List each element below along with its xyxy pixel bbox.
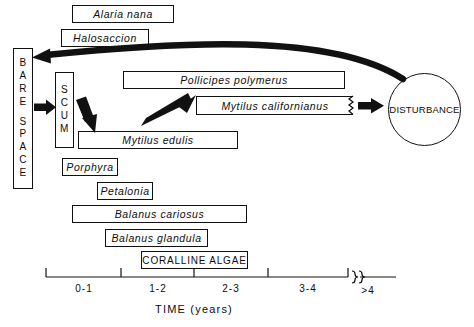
arrow-mytilus-californianus-to-disturbance: [358, 98, 384, 114]
species-label: Mytilus edulis: [122, 134, 193, 146]
bare-space-letter: A: [19, 141, 26, 154]
species-box-mytilus-californianus: Mytilus californianus: [196, 96, 353, 115]
species-label: Petalonia: [100, 185, 149, 197]
arrow-scum-to-mytilus-edulis: [76, 97, 97, 134]
node-scum: S C U M: [55, 72, 74, 148]
scum-letter: M: [60, 123, 69, 136]
species-label: Pollicipes polymerus: [180, 74, 288, 86]
species-label: Porphyra: [66, 161, 113, 173]
bare-space-letter: C: [19, 154, 27, 167]
scum-letter: U: [61, 110, 69, 123]
tick-text: 2-3: [222, 283, 239, 294]
axis-title-time: TIME (years): [155, 303, 233, 315]
axis-break-icon: [352, 271, 365, 283]
species-box-porphyra: Porphyra: [62, 158, 118, 176]
bare-space-letter: E: [19, 167, 26, 180]
species-label: Balanus glandula: [111, 232, 201, 244]
succession-diagram: B A R E S P A C E S C U M Alaria nana Ha…: [0, 0, 474, 327]
species-label: Alaria nana: [93, 8, 153, 20]
tick-text: 1-2: [149, 283, 166, 294]
species-box-balanus-glandula: Balanus glandula: [105, 229, 208, 247]
scum-letter: C: [61, 97, 69, 110]
tick-text: 0-1: [75, 283, 92, 294]
tick-text: >4: [361, 285, 374, 296]
axis-title-text: TIME (years): [155, 303, 233, 315]
axis-tick-label-1-2: 1-2: [127, 283, 189, 294]
species-box-alaria-nana: Alaria nana: [72, 5, 174, 23]
species-box-petalonia: Petalonia: [97, 182, 153, 200]
bare-space-letter: A: [19, 70, 26, 83]
bare-space-letter: B: [19, 57, 26, 70]
axis-tick-label-3-4: 3-4: [277, 283, 339, 294]
species-box-coralline-algae: CORALLINE ALGAE: [141, 251, 248, 269]
node-disturbance: DISTURBANCE: [388, 73, 461, 146]
species-label: Halosaccion: [73, 32, 137, 44]
species-box-balanus-cariosus: Balanus cariosus: [72, 205, 247, 223]
scum-letter: S: [61, 84, 68, 97]
species-label: CORALLINE ALGAE: [142, 255, 246, 266]
disturbance-label: DISTURBANCE: [389, 104, 459, 115]
time-axis: [46, 268, 396, 283]
bare-space-letter: S: [19, 116, 26, 129]
species-label: Mytilus californianus: [221, 100, 328, 112]
species-label: Balanus cariosus: [115, 208, 205, 220]
species-box-pollicipes-polymerus: Pollicipes polymerus: [123, 71, 345, 89]
bare-space-letter: P: [19, 128, 26, 141]
axis-tick-label-0-1: 0-1: [53, 283, 115, 294]
arrow-mytilus-edulis-to-mytilus-californianus: [141, 93, 196, 126]
tick-text: 3-4: [299, 283, 316, 294]
axis-tick-label-gt-4: >4: [343, 285, 393, 296]
node-bare-space: B A R E S P A C E: [13, 48, 33, 189]
bare-space-letter: E: [19, 96, 26, 109]
axis-tick-label-2-3: 2-3: [200, 283, 262, 294]
bare-space-letter: R: [19, 83, 27, 96]
species-box-mytilus-edulis: Mytilus edulis: [78, 131, 238, 149]
species-box-halosaccion: Halosaccion: [61, 29, 149, 47]
arrow-bare-space-to-scum: [34, 100, 56, 116]
